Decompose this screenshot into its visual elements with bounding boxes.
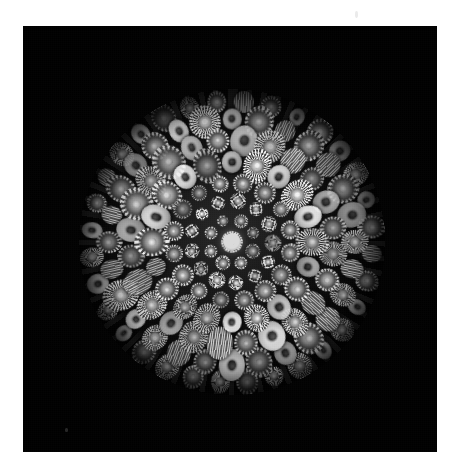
cane-core	[214, 99, 218, 104]
cane-r3-15	[212, 176, 228, 192]
cane-r4-0	[221, 150, 243, 173]
cane-core	[219, 298, 223, 302]
cane-r2-3	[265, 235, 280, 250]
cane-core	[267, 222, 271, 226]
cane-r3-3	[281, 222, 298, 239]
cane-core	[369, 224, 375, 229]
cane-r0-0	[223, 233, 242, 252]
cane-r2-6	[229, 275, 244, 290]
emulsion-speck-top-right	[355, 11, 358, 18]
cane-r3-7	[235, 291, 253, 309]
photo-page: Monochrome photograph of a millefiori gl…	[0, 0, 461, 475]
cane-core	[239, 219, 243, 223]
cane-r1-0	[233, 213, 247, 227]
cane-r3-12	[165, 222, 183, 240]
cane-r4-5	[297, 229, 328, 256]
cane-r4-10	[222, 311, 243, 333]
cane-core	[229, 116, 235, 123]
cane-r5-11	[235, 331, 257, 355]
photograph-print	[23, 26, 437, 452]
cane-r3-8	[212, 292, 229, 309]
emulsion-speck-bottom-left	[65, 428, 68, 432]
cane-core	[241, 298, 246, 303]
cane-r2-0	[230, 194, 246, 210]
cane-r3-4	[281, 245, 298, 262]
cane-core	[88, 227, 95, 233]
cane-core	[202, 359, 208, 365]
cane-core	[106, 240, 112, 245]
paperweight-dome	[79, 89, 385, 395]
cane-core	[271, 241, 274, 244]
